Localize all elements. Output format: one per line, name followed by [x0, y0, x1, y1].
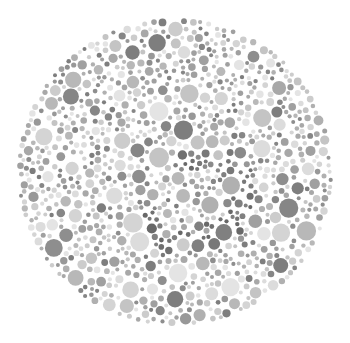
dot	[231, 29, 236, 34]
dot	[135, 257, 141, 263]
dot	[50, 85, 61, 96]
dot	[94, 164, 102, 172]
dot	[154, 217, 159, 222]
dot	[187, 285, 191, 289]
dot	[56, 136, 62, 142]
dot	[190, 302, 194, 306]
dot	[218, 119, 224, 125]
dot	[316, 214, 323, 221]
dot	[137, 101, 145, 109]
dot	[242, 301, 250, 309]
dot	[212, 65, 216, 69]
dot	[247, 81, 252, 86]
dot	[40, 247, 44, 251]
dot	[81, 142, 87, 148]
dot	[219, 315, 223, 319]
dot	[178, 46, 190, 58]
dot	[63, 266, 70, 273]
dot	[178, 308, 183, 313]
dot	[191, 136, 205, 150]
dot	[214, 131, 218, 135]
dot	[274, 142, 278, 146]
dot	[39, 108, 44, 113]
dot	[121, 66, 125, 70]
dot	[104, 212, 108, 216]
dot	[272, 81, 286, 95]
dot	[154, 29, 158, 33]
dot	[235, 222, 239, 226]
dot	[132, 170, 146, 184]
dot	[139, 296, 147, 304]
dot	[233, 78, 237, 82]
dot	[211, 215, 216, 220]
dot	[124, 264, 128, 268]
dot	[72, 224, 77, 229]
dot	[307, 124, 313, 130]
dot	[129, 192, 133, 196]
dot	[104, 61, 109, 66]
dot	[196, 155, 201, 160]
dot	[109, 293, 114, 298]
dot	[147, 284, 158, 295]
dot	[28, 192, 38, 202]
dot	[83, 235, 88, 240]
dot	[140, 267, 145, 272]
dot	[65, 132, 73, 140]
dot	[126, 117, 131, 122]
dot	[149, 102, 168, 121]
dot	[166, 258, 172, 264]
dot	[56, 192, 62, 198]
dot	[218, 163, 222, 167]
dot	[85, 179, 94, 188]
dot	[215, 280, 221, 286]
dot	[214, 42, 218, 46]
dot	[143, 305, 147, 309]
dot	[131, 143, 145, 157]
dot	[194, 184, 199, 189]
dot	[79, 150, 83, 154]
dot	[233, 244, 237, 248]
dot	[270, 240, 276, 246]
dot	[172, 51, 176, 55]
dot	[158, 296, 164, 302]
dot	[186, 204, 190, 208]
dot	[153, 96, 157, 100]
dot	[200, 276, 206, 282]
dot	[82, 112, 87, 117]
dot	[242, 264, 246, 268]
dot	[154, 242, 158, 246]
dot	[192, 30, 197, 35]
dot	[95, 144, 101, 150]
dot	[231, 133, 237, 139]
dot	[242, 45, 246, 49]
dot	[201, 120, 205, 124]
dot	[166, 136, 176, 146]
dot	[205, 272, 209, 276]
dot	[50, 263, 54, 267]
dot	[223, 253, 228, 258]
dot	[186, 59, 191, 64]
dot	[232, 92, 236, 96]
dot	[78, 50, 82, 54]
dot	[259, 183, 269, 193]
dot	[206, 235, 210, 239]
dot	[228, 209, 233, 214]
dot	[47, 234, 52, 239]
dot	[98, 120, 103, 125]
dot	[295, 249, 302, 256]
dot	[287, 78, 292, 83]
dot	[133, 98, 137, 102]
dot	[187, 35, 194, 42]
dot	[214, 308, 221, 315]
dot	[122, 85, 128, 91]
dot	[122, 101, 129, 108]
dot	[102, 291, 108, 297]
dot	[152, 78, 157, 83]
dot	[207, 186, 211, 190]
dot	[288, 103, 296, 111]
dot	[249, 63, 255, 69]
dot	[95, 174, 99, 178]
dot	[183, 144, 189, 150]
dot	[104, 146, 110, 152]
dot	[137, 59, 144, 66]
